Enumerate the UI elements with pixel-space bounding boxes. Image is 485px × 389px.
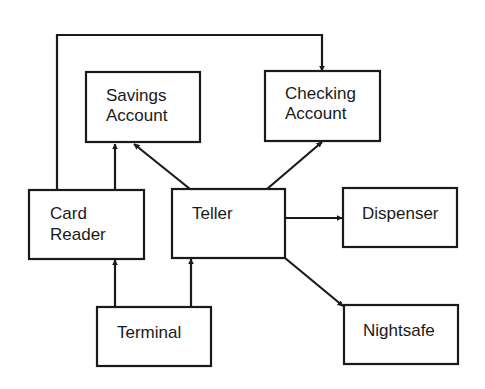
node-label: Dispenser (362, 204, 439, 223)
node-label: Card (50, 204, 87, 223)
node-box (172, 189, 285, 258)
edge-teller-to-checking (267, 142, 322, 189)
node-checking: CheckingAccount (265, 71, 380, 141)
node-label: Reader (50, 225, 106, 244)
node-terminal: Terminal (97, 307, 211, 366)
edge-teller-to-savings (134, 144, 190, 189)
edge-teller-to-nightsafe (285, 258, 343, 306)
node-label: Checking (285, 84, 356, 103)
node-label: Nightsafe (363, 321, 435, 340)
node-label: Teller (192, 204, 233, 223)
nodes-layer: SavingsAccountCheckingAccountCardReaderT… (29, 71, 458, 366)
node-teller: Teller (172, 189, 285, 258)
node-card-reader: CardReader (29, 190, 144, 259)
node-label: Account (285, 104, 347, 123)
node-savings: SavingsAccount (86, 72, 200, 142)
node-label: Account (106, 106, 168, 125)
node-nightsafe: Nightsafe (344, 305, 458, 364)
diagram-canvas: SavingsAccountCheckingAccountCardReaderT… (0, 0, 485, 389)
node-label: Savings (106, 86, 166, 105)
node-dispenser: Dispenser (343, 188, 457, 247)
node-label: Terminal (117, 323, 181, 342)
